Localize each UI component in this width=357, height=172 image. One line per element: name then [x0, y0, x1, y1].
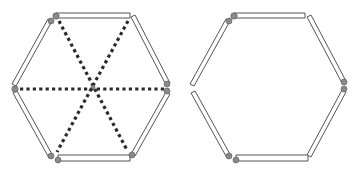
center-point	[91, 85, 95, 89]
joint-right-upper	[341, 79, 347, 85]
hexagon-diagram	[0, 0, 357, 172]
joint-right-lower	[341, 86, 347, 92]
joint-bottom-right	[129, 152, 135, 158]
left-hexagon	[12, 13, 170, 163]
joint-top-left-2	[226, 18, 232, 24]
stick-lower-left	[191, 91, 231, 158]
stick-upper-right	[131, 15, 170, 85]
stick-bottom	[58, 155, 130, 161]
stick-bottom	[236, 155, 308, 161]
joint-right-lower	[164, 88, 170, 94]
stick-top	[234, 13, 305, 18]
joint-left	[12, 86, 18, 92]
joint-bottom-left	[226, 153, 232, 159]
joint-bottom-left	[48, 153, 54, 159]
stick-lower-left	[13, 91, 53, 158]
stick-lower-right	[307, 90, 346, 157]
joint-top-left	[53, 13, 59, 19]
stick-top	[56, 13, 130, 18]
stick-upper-left	[12, 19, 52, 86]
joint-bottom-left-2	[55, 157, 61, 163]
joint-right-upper	[164, 81, 170, 87]
stick-upper-right	[307, 15, 346, 83]
joint-top-left-2	[48, 18, 54, 24]
stick-lower-right	[131, 92, 170, 156]
right-hexagon	[190, 13, 347, 163]
stick-upper-left	[190, 19, 230, 86]
joint-top-left	[231, 13, 237, 19]
joint-bottom-left-2	[233, 157, 239, 163]
